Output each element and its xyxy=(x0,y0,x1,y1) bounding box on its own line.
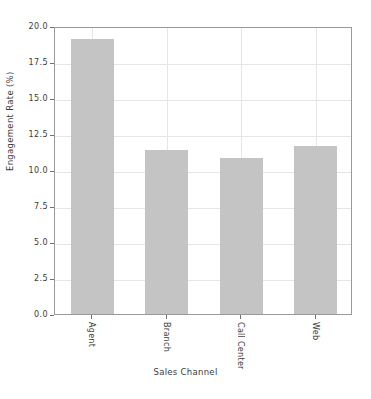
bar-agent xyxy=(71,39,114,314)
x-tick-mark xyxy=(315,315,316,319)
y-tick-label: 2.5 xyxy=(4,275,48,283)
x-tick-label: Call Center xyxy=(236,322,244,370)
bar-call-center xyxy=(220,158,263,314)
x-tick-label: Agent xyxy=(87,322,95,347)
y-tick-mark xyxy=(50,315,54,316)
y-tick-label: 12.5 xyxy=(4,131,48,139)
y-tick-label: 15.0 xyxy=(4,95,48,103)
plot-area xyxy=(54,27,352,315)
y-tick-label: 20.0 xyxy=(4,23,48,31)
x-tick-mark xyxy=(166,315,167,319)
bar-branch xyxy=(145,150,188,314)
bar-chart-figure: Engagement Rate (%) Sales Channel 0.02.5… xyxy=(0,0,371,399)
x-axis-label: Sales Channel xyxy=(0,368,371,377)
y-tick-label: 17.5 xyxy=(4,59,48,67)
x-tick-label: Web xyxy=(311,322,319,340)
x-tick-mark xyxy=(240,315,241,319)
y-tick-label: 5.0 xyxy=(4,239,48,247)
y-tick-label: 7.5 xyxy=(4,203,48,211)
bar-web xyxy=(294,146,337,314)
x-tick-label: Branch xyxy=(162,322,170,352)
y-tick-label: 10.0 xyxy=(4,167,48,175)
x-tick-mark xyxy=(91,315,92,319)
y-axis-label: Engagement Rate (%) xyxy=(6,71,15,171)
y-tick-label: 0.0 xyxy=(4,311,48,319)
